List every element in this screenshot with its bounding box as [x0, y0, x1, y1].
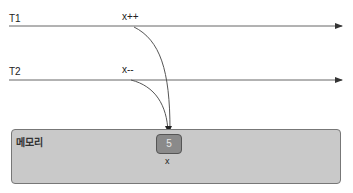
thread-t1-label: T1 — [9, 14, 21, 24]
variable-name: x — [165, 157, 170, 166]
thread-t2-label: T2 — [9, 67, 21, 77]
thread-t1-operation: x++ — [122, 12, 139, 22]
t2-access-curve — [131, 80, 168, 132]
variable-cell: 5 — [156, 134, 182, 154]
t1-access-curve — [134, 27, 170, 130]
memory-label: 메모리 — [16, 138, 43, 148]
thread-t2-operation: x-- — [122, 65, 134, 75]
